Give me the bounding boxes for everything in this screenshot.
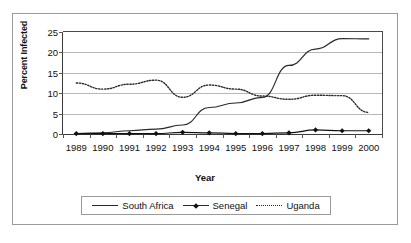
x-axis-title: Year (13, 172, 397, 183)
series-layer (63, 32, 382, 134)
legend-item-senegal: Senegal (183, 200, 248, 211)
x-tick-label: 1994 (199, 142, 220, 153)
data-point-marker (313, 127, 318, 132)
y-tick-label: 25 (47, 27, 58, 38)
x-tick-mark (302, 134, 303, 138)
x-tick-label: 1995 (225, 142, 246, 153)
x-tick-mark (223, 134, 224, 138)
y-tick-label: 15 (47, 67, 58, 78)
x-tick-mark (355, 134, 356, 138)
data-point-marker (180, 130, 185, 135)
diamond-marker-line-icon (183, 201, 209, 210)
y-tick-label: 0 (53, 129, 58, 140)
x-tick-label: 1999 (332, 142, 353, 153)
plot-right-border (382, 31, 383, 134)
data-point-marker (286, 130, 291, 135)
chart-legend: South Africa Senegal Uganda (81, 196, 331, 215)
y-tick-label: 10 (47, 88, 58, 99)
x-tick-label: 1990 (92, 142, 113, 153)
y-tick-label: 20 (47, 47, 58, 58)
solid-line-icon (92, 201, 118, 210)
legend-label-uganda: Uganda (286, 200, 319, 211)
chart-frame: Percent Infected 0510152025 198919901991… (12, 13, 398, 225)
plot-area: 0510152025 19891990199119921993199419951… (62, 32, 382, 135)
x-tick-label: 1997 (278, 142, 299, 153)
x-tick-mark (143, 134, 144, 138)
x-tick-mark (382, 134, 383, 138)
x-tick-mark (276, 134, 277, 138)
data-point-marker (207, 130, 212, 135)
data-point-marker (127, 131, 132, 136)
x-tick-label: 1993 (172, 142, 193, 153)
dotted-line-icon (256, 201, 282, 210)
x-tick-label: 1989 (66, 142, 87, 153)
data-point-marker (74, 131, 79, 136)
legend-label-senegal: Senegal (213, 200, 248, 211)
data-point-marker (340, 128, 345, 133)
data-point-marker (153, 131, 158, 136)
x-tick-label: 1991 (119, 142, 140, 153)
x-tick-label: 1992 (145, 142, 166, 153)
y-axis-title: Percent Infected (19, 0, 29, 110)
x-tick-mark (90, 134, 91, 138)
y-tick-label: 5 (53, 108, 58, 119)
data-point-marker (366, 128, 371, 133)
series-line-uganda (76, 80, 368, 112)
x-tick-mark (63, 134, 64, 138)
data-point-marker (260, 131, 265, 136)
legend-label-south-africa: South Africa (122, 200, 173, 211)
series-line-south-africa (76, 39, 368, 134)
x-tick-label: 1998 (305, 142, 326, 153)
data-point-marker (100, 131, 105, 136)
x-tick-label: 1996 (252, 142, 273, 153)
x-tick-label: 2000 (358, 142, 379, 153)
x-tick-mark (169, 134, 170, 138)
x-tick-mark (196, 134, 197, 138)
x-tick-mark (116, 134, 117, 138)
legend-item-uganda: Uganda (256, 200, 319, 211)
legend-item-south-africa: South Africa (92, 200, 173, 211)
x-tick-mark (249, 134, 250, 138)
x-tick-mark (329, 134, 330, 138)
data-point-marker (233, 131, 238, 136)
